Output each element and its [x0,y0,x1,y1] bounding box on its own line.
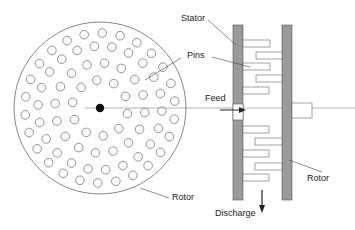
pin-hole [34,101,43,110]
pin-hole [68,98,77,107]
pin-hole [99,132,108,141]
pin-hole [42,135,51,144]
pin-hole [93,76,102,85]
pin-hole [123,109,132,118]
pin-hole [147,49,156,58]
pin-hole [100,59,109,68]
pin-hole [167,79,176,88]
pin-hole [133,38,142,47]
pin-hole [91,149,100,158]
pin-hole [51,99,60,108]
pin-hole [141,108,150,117]
pins [243,40,282,181]
pin-hole [21,111,30,120]
pin-hole [73,46,82,55]
pin-hole [82,128,91,137]
pin-hole [134,153,143,162]
pin-hole [84,165,93,174]
pins-label: Pins [187,51,205,60]
pin-hole [98,29,107,38]
pin-hole [170,97,179,106]
pin-hole [135,125,144,134]
pin-hole [44,158,53,167]
pin-hole [80,30,89,39]
pin-hole [25,128,34,137]
pin-hole [108,43,117,52]
pin-hole [150,73,159,82]
pin-hole [144,161,153,170]
pin-hole [33,145,42,154]
pin-hole [67,69,76,78]
pin-hole [139,91,148,100]
pin-hole [59,169,68,178]
pin-hole [53,117,62,126]
pin-hole [170,115,179,124]
pin-hole [26,75,35,84]
pin-hole [119,161,128,170]
pin-hole [58,55,67,64]
pin-hole [124,49,133,58]
pin-hole [63,36,72,45]
feed-opening [233,104,243,120]
pin-hole [109,147,118,156]
pin-hole [112,177,121,186]
pin-hole [110,79,119,88]
pin-hole [154,124,163,133]
pin-hole [124,139,133,148]
pin-hole [121,92,130,101]
pin-hole [53,149,62,158]
pin-hole [156,148,165,157]
pin-hole [156,89,165,98]
feed-label: Feed [205,94,226,103]
pin-hole [139,59,148,68]
pin-hole [94,179,103,188]
hub-dot [96,104,104,112]
rotor-plate-label: Rotor [307,174,329,183]
pin-hole [45,68,54,77]
pin-hole [74,143,83,152]
pin-hole [129,171,138,180]
pin-hole [67,159,76,168]
pin-hole [165,132,174,141]
rotor-plate [282,25,292,200]
pin-mill-diagram: Stator Pins Feed Rotor Rotor Discharge [0,0,355,230]
pin-hole [70,115,79,124]
pin-hole [90,42,99,51]
discharge-label: Discharge [215,209,256,218]
discharge-arrow-icon [259,205,265,213]
pin-hole [101,165,110,174]
pin-hole [116,31,125,40]
pin-hole [76,176,85,185]
pin-hole [37,83,46,92]
stator-label: Stator [181,14,205,23]
pin-hole [56,82,65,91]
pin-hole [117,64,126,73]
pin-hole [35,118,44,127]
pin-hole [48,46,57,55]
pin-hole [131,75,140,84]
pin-hole [115,124,124,133]
pin-hole [83,61,92,70]
rotor-disk-label: Rotor [172,193,194,202]
pin-hole [61,132,70,141]
pin-hole [77,83,86,92]
pin-hole [146,140,155,149]
pin-hole [22,93,31,102]
rotor-shaft [292,103,312,118]
pin-hole [35,59,44,68]
